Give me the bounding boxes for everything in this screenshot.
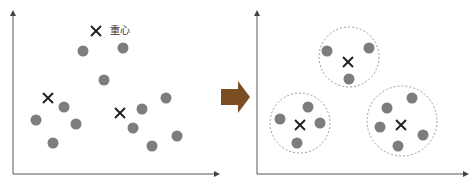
centroid-cross-icon [115,108,125,118]
data-point [59,102,70,113]
data-point [393,141,404,152]
data-point [303,102,314,113]
data-point [322,46,333,57]
data-point [275,114,286,125]
after-panel [257,13,466,174]
kmeans-diagram: 重心 [0,0,474,183]
data-point [99,75,110,86]
data-point [118,43,129,54]
centroid-cross-icon [91,26,101,36]
cluster [367,86,437,156]
after-clusters [270,27,437,156]
data-point [407,93,418,104]
data-point [172,131,183,142]
data-point [418,130,429,141]
before-panel: 重心 [13,13,217,174]
data-point [344,74,355,85]
data-point [161,93,172,104]
data-point [31,115,42,126]
transition-arrow-icon [221,81,250,113]
cluster [270,93,330,153]
centroid-label: 重心 [110,24,130,36]
centroid-cross-icon [396,120,406,130]
before-points [31,43,183,152]
data-point [137,104,148,115]
data-point [375,122,386,133]
data-point [128,123,139,134]
data-point [315,118,326,129]
data-point [364,43,375,54]
data-point [292,138,303,149]
centroid-cross-icon [343,57,353,67]
data-point [147,141,158,152]
data-point [382,103,393,114]
centroid-cross-icon [295,120,305,130]
data-point [78,46,89,57]
centroid-cross-icon [43,93,53,103]
data-point [48,138,59,149]
data-point [71,119,82,130]
cluster [319,27,379,87]
before-centroids [43,26,125,118]
